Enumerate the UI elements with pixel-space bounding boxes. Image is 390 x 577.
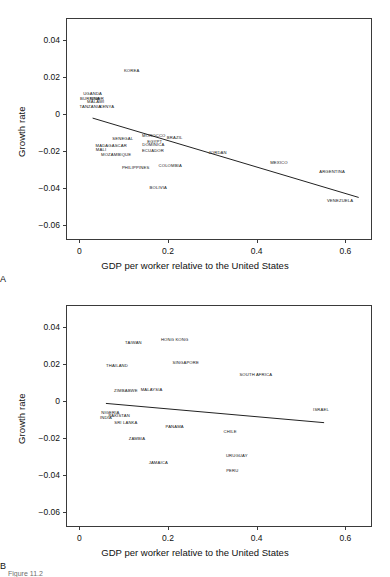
data-point-label: PERU	[226, 467, 238, 472]
data-point-label: URUGUAY	[226, 453, 248, 458]
data-point-label: THAILAND	[106, 363, 128, 368]
data-point-label: PANAMA	[166, 423, 184, 428]
panel-a: 0.040.020−0.02−0.04−0.0600.20.40.6Growth…	[0, 0, 390, 287]
data-point-label: SINGAPORE	[173, 359, 199, 364]
regression-line	[0, 0, 390, 287]
data-point-label: BRAZIL	[167, 135, 183, 140]
data-point-label: INDIA	[100, 415, 112, 420]
data-point-label: SOUTH AFRICA	[239, 372, 272, 377]
data-point-label: ZIMBABWE	[114, 388, 138, 393]
data-point-label: HONG KONG	[161, 337, 188, 342]
data-point-label: KENYA	[99, 104, 114, 109]
data-point-label: JAMAICA	[149, 459, 168, 464]
figure-caption: Figure 11.2	[8, 570, 43, 577]
data-point-label: CHILE	[224, 429, 237, 434]
data-point-label: SRI LANKA	[114, 420, 137, 425]
data-point-label: DOMINICA	[142, 142, 164, 147]
data-point-label: TANZANIA	[80, 103, 102, 108]
panel-b: 0.040.020−0.02−0.04−0.0600.20.40.6Growth…	[0, 287, 390, 574]
data-point-label: MOZAMBIQUE	[101, 151, 131, 156]
data-point-label: MEXICO	[270, 160, 287, 165]
data-point-label: JORDAN	[209, 150, 227, 155]
data-point-label: TAIWAN	[125, 340, 142, 345]
data-point-label: ZAMBIA	[129, 436, 146, 441]
data-point-label: MOROCCO	[142, 132, 165, 137]
regression-line	[0, 287, 390, 574]
data-point-label: BOLIVIA	[150, 185, 167, 190]
data-point-label: PHILIPPINES	[122, 164, 149, 169]
data-point-label: ECUADOR	[142, 148, 164, 153]
data-point-label: ISRAEL	[313, 406, 329, 411]
data-point-label: COLOMBIA	[159, 163, 182, 168]
data-point-label: KOREA	[124, 68, 139, 73]
data-point-label: MALAYSIA	[141, 386, 163, 391]
data-point-label: VENEZUELA	[327, 197, 353, 202]
data-point-label: SENEGAL	[112, 136, 133, 141]
data-point-label: ARGENTINA	[319, 168, 345, 173]
